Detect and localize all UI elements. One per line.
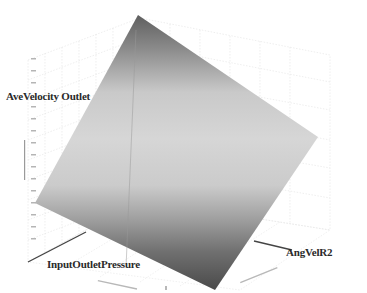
x-axis-label: InputOutletPressure <box>47 258 140 270</box>
z-axis-label: AveVelocity Outlet <box>6 90 90 102</box>
y-axis-label: AngVelR2 <box>286 246 332 258</box>
x-axis-ticks <box>98 280 167 290</box>
response-surface <box>35 15 318 290</box>
y-axis-ticks <box>240 267 278 283</box>
z-axis-ticks <box>24 58 36 240</box>
